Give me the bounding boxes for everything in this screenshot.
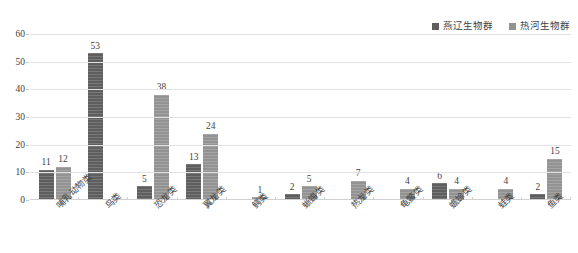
bar-value-label: 15 bbox=[550, 147, 560, 157]
gridline bbox=[30, 62, 571, 63]
legend-label: 热河生物群 bbox=[520, 22, 570, 32]
x-axis-label-cell: 热龙类 bbox=[325, 200, 374, 253]
y-axis-tick-label: 0 bbox=[20, 195, 25, 205]
x-axis-labels: 哺乳动物类鸟类恐龙类翼龙类鳄类蜥蜴类热龙类龟鳖类蟾蜍类蛙类鱼类 bbox=[30, 200, 571, 253]
bar-value-label: 7 bbox=[356, 169, 361, 179]
bar-value-label: 13 bbox=[189, 153, 199, 163]
gridline bbox=[30, 89, 571, 90]
bar[interactable] bbox=[154, 95, 169, 200]
x-axis-label-cell: 蟾蜍类 bbox=[424, 200, 473, 253]
legend-entry[interactable]: 燕辽生物群 bbox=[432, 22, 493, 32]
bar-value-label: 38 bbox=[157, 83, 167, 93]
y-axis-tick-label: 50 bbox=[16, 57, 26, 67]
y-axis-tick-label: 30 bbox=[16, 112, 26, 122]
bar-value-label: 53 bbox=[91, 42, 101, 52]
y-axis-tick-mark bbox=[26, 62, 29, 63]
y-axis-tick-mark bbox=[26, 89, 29, 90]
gridline bbox=[30, 117, 571, 118]
bar-value-label: 4 bbox=[454, 177, 459, 187]
bar[interactable] bbox=[39, 170, 54, 200]
x-axis-label-cell: 鱼类 bbox=[522, 200, 571, 253]
chart-legend: 燕辽生物群热河生物群 bbox=[432, 22, 570, 32]
legend-swatch-icon bbox=[432, 23, 439, 30]
x-axis-label-cell: 蜥蜴类 bbox=[276, 200, 325, 253]
bar-value-label: 2 bbox=[536, 183, 541, 193]
bar[interactable] bbox=[186, 164, 201, 200]
y-axis-tick-mark bbox=[26, 117, 29, 118]
bar[interactable] bbox=[137, 186, 152, 200]
y-axis-tick-mark bbox=[26, 34, 29, 35]
x-axis-label-cell: 哺乳动物类 bbox=[30, 200, 79, 253]
bar[interactable] bbox=[432, 183, 447, 200]
gridline bbox=[30, 172, 571, 173]
legend-entry[interactable]: 热河生物群 bbox=[509, 22, 570, 32]
bar-value-label: 4 bbox=[503, 177, 508, 187]
y-axis-tick-mark bbox=[26, 172, 29, 173]
x-axis-label-cell: 龟鳖类 bbox=[374, 200, 423, 253]
gridline bbox=[30, 34, 571, 35]
y-axis-tick-label: 60 bbox=[16, 29, 26, 39]
legend-label: 燕辽生物群 bbox=[443, 22, 493, 32]
y-axis-tick-label: 10 bbox=[16, 167, 26, 177]
y-axis-tick-mark bbox=[26, 200, 29, 201]
y-axis-tick-mark bbox=[26, 145, 29, 146]
bar-value-label: 2 bbox=[290, 183, 295, 193]
bar-chart: 燕辽生物群热河生物群 111253538132412574644215 0102… bbox=[0, 0, 578, 253]
y-axis-tick-label: 20 bbox=[16, 140, 26, 150]
x-axis-label-cell: 翼龙类 bbox=[178, 200, 227, 253]
x-axis-label-cell: 恐龙类 bbox=[128, 200, 177, 253]
bar-value-label: 24 bbox=[206, 122, 216, 132]
y-axis-tick-label: 40 bbox=[16, 84, 26, 94]
bar-value-label: 6 bbox=[437, 172, 442, 182]
bar-value-label: 5 bbox=[142, 175, 147, 185]
x-axis-label-cell: 鸟类 bbox=[79, 200, 128, 253]
bar-value-label: 12 bbox=[58, 155, 68, 165]
bar-value-label: 4 bbox=[405, 177, 410, 187]
x-axis-label-cell: 鳄类 bbox=[227, 200, 276, 253]
bar-value-label: 5 bbox=[307, 175, 312, 185]
x-axis-label-cell: 蛙类 bbox=[473, 200, 522, 253]
legend-swatch-icon bbox=[509, 23, 516, 30]
plot-area: 111253538132412574644215 0102030405060 bbox=[30, 34, 571, 200]
gridline bbox=[30, 145, 571, 146]
bar-value-label: 11 bbox=[42, 158, 51, 168]
